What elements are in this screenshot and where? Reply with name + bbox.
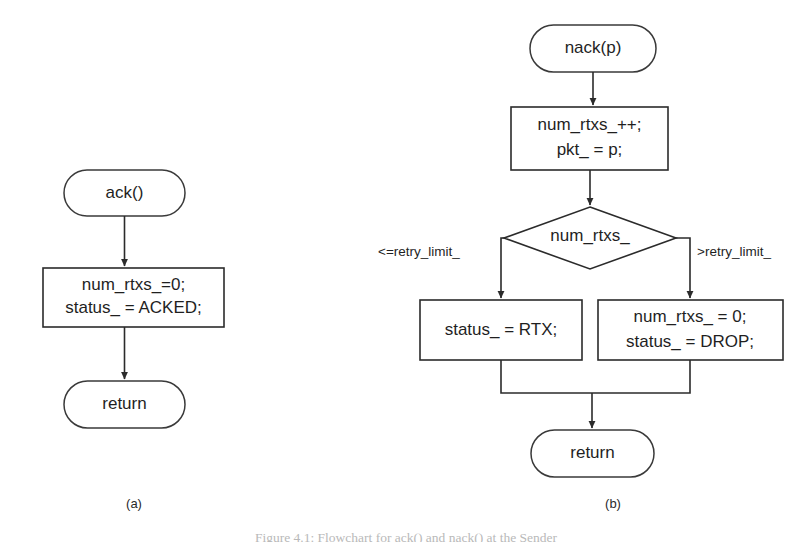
- node-retry-decision: num_rtxs_: [504, 207, 676, 269]
- node-retry-decision-label: num_rtxs_: [550, 226, 630, 245]
- node-rtx-process-line1: status_ = RTX;: [445, 320, 558, 339]
- edge-decision-to-rtx: [501, 238, 504, 298]
- figure-caption: Figure 4.1: Flowchart for ack() and nack…: [0, 531, 812, 542]
- node-nack-start-label: nack(p): [565, 38, 622, 57]
- panel-label-a: (a): [126, 496, 142, 511]
- node-drop-process: num_rtxs_ = 0; status_ = DROP;: [598, 300, 783, 360]
- edge-merge-branches: [501, 360, 690, 393]
- node-drop-process-line1: num_rtxs_ = 0;: [634, 307, 747, 326]
- node-drop-process-line2: status_ = DROP;: [626, 332, 754, 351]
- node-ack-start: ack(): [64, 170, 185, 216]
- edge-label-retry-within-limit: <=retry_limit_: [378, 244, 460, 259]
- node-ack-process-line2: status_ = ACKED;: [65, 298, 202, 317]
- node-ack-return-label: return: [102, 394, 146, 413]
- figure-root: ack() num_rtxs_=0; status_ = ACKED; retu…: [0, 0, 812, 542]
- node-ack-start-label: ack(): [106, 183, 144, 202]
- node-ack-process-line1: num_rtxs_=0;: [82, 275, 185, 294]
- node-nack-process-line1: num_rtxs_++;: [538, 115, 642, 134]
- panel-b-group: nack(p) num_rtxs_++; pkt_ = p; num_rtxs_…: [378, 25, 783, 511]
- node-nack-start: nack(p): [530, 25, 656, 72]
- node-nack-return-label: return: [570, 443, 614, 462]
- node-nack-process-line2: pkt_ = p;: [557, 140, 623, 159]
- edge-decision-to-drop: [676, 238, 690, 298]
- edge-label-retry-exceeded: >retry_limit_: [697, 244, 771, 259]
- node-rtx-process: status_ = RTX;: [420, 300, 582, 360]
- node-nack-return: return: [531, 430, 654, 477]
- panel-a-group: ack() num_rtxs_=0; status_ = ACKED; retu…: [43, 170, 224, 511]
- panel-label-b: (b): [605, 496, 621, 511]
- node-nack-process: num_rtxs_++; pkt_ = p;: [511, 107, 668, 170]
- node-ack-process: num_rtxs_=0; status_ = ACKED;: [43, 268, 224, 327]
- node-ack-return: return: [64, 381, 185, 428]
- flowchart-canvas: ack() num_rtxs_=0; status_ = ACKED; retu…: [0, 0, 812, 542]
